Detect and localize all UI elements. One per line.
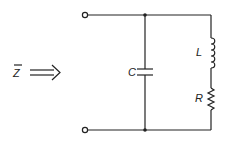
inductor-symbol xyxy=(211,38,215,68)
circuit-diagram: Z C L R xyxy=(0,0,232,146)
double-arrow-icon xyxy=(30,65,60,80)
capacitor-label: C xyxy=(128,66,136,78)
bottom-terminal xyxy=(82,127,87,132)
resistor-symbol xyxy=(208,88,214,110)
resistor-label: R xyxy=(195,92,203,104)
impedance-label: Z xyxy=(12,67,21,79)
capacitor-symbol xyxy=(137,15,153,130)
inductor-label: L xyxy=(196,46,202,58)
top-terminal xyxy=(82,12,87,17)
